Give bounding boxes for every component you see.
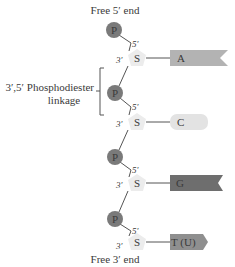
prime-5-label: 5′	[132, 39, 140, 49]
prime-5-label: 5′	[132, 226, 140, 236]
prime-3-label: 3′	[115, 55, 124, 65]
phosphodiester-label-line1: 3′,5′ Phosphodiester	[5, 81, 94, 93]
phosphate-2: P	[107, 85, 123, 101]
sugar-symbol: S	[134, 52, 140, 64]
phosphate-3: P	[107, 149, 123, 165]
base-a: A	[170, 50, 228, 66]
base-label: A	[177, 52, 185, 64]
base-c: C	[170, 114, 208, 130]
base-g: G	[170, 175, 223, 191]
prime-3-label: 3′	[115, 241, 124, 251]
prime-3-label: 3′	[115, 180, 124, 190]
backbone-lines	[119, 35, 170, 242]
phosphate-symbol: P	[112, 213, 118, 225]
sugar-1: S	[128, 49, 146, 66]
sugar-symbol: S	[134, 236, 140, 248]
phosphate-1: P	[106, 22, 122, 38]
phosphate-symbol: P	[112, 87, 118, 99]
base-label: T (U)	[171, 236, 196, 249]
prime-3-label: 3′	[115, 119, 124, 129]
linkage-bracket	[96, 68, 104, 115]
base-label: G	[176, 177, 184, 189]
phosphate-symbol: P	[111, 24, 117, 36]
prime-5-label: 5′	[132, 102, 140, 112]
prime-5-label: 5′	[132, 165, 140, 175]
base-t-u: T (U)	[170, 234, 208, 250]
dna-strand-diagram: Free 5′ end 3′,5′ Phosphodiester linkage…	[0, 0, 235, 267]
free-3-end-label: Free 3′ end	[91, 253, 140, 265]
phosphate-symbol: P	[112, 151, 118, 163]
sugar-3: S	[128, 174, 146, 191]
sugar-symbol: S	[134, 116, 140, 128]
free-5-end-label: Free 5′ end	[91, 4, 140, 16]
sugar-2: S	[128, 113, 146, 130]
phosphodiester-label-line2: linkage	[48, 94, 80, 106]
base-label: C	[177, 116, 184, 128]
phosphate-4: P	[107, 211, 123, 227]
sugar-symbol: S	[134, 177, 140, 189]
